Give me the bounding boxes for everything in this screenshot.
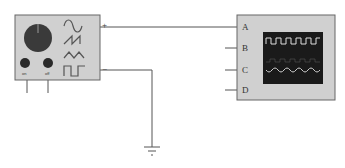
channel-d-label: D [242,85,249,95]
off-button [43,58,53,68]
on-button [20,58,30,68]
wire-negative-to-ground [100,70,152,147]
function-generator [15,15,100,80]
off-button-label: off [45,71,49,76]
oscilloscope-screen [263,32,323,84]
circuit-diagram [0,0,345,168]
channel-b-label: B [242,43,248,53]
negative-terminal-label: − [102,64,107,74]
on-button-label: on [22,71,26,76]
channel-c-label: C [242,65,248,75]
ground-icon [144,147,160,155]
channel-a-label: A [242,22,249,32]
oscilloscope [237,15,335,100]
positive-terminal-label: + [102,20,107,30]
